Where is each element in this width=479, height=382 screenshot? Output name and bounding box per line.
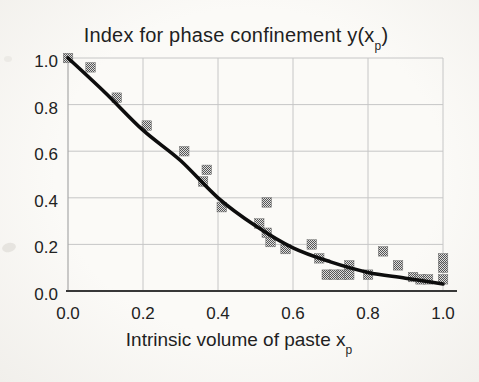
data-point (86, 63, 96, 73)
y-tick-label: 0.4 (34, 192, 58, 211)
y-tick-label: 0.2 (34, 238, 58, 257)
data-point (262, 198, 272, 208)
data-point (438, 263, 448, 273)
tick-labels: 0.00.20.40.60.81.00.00.20.40.60.81.0 (34, 52, 454, 323)
y-tick-label: 0.0 (34, 285, 58, 304)
data-point (345, 270, 355, 280)
data-point (180, 147, 190, 157)
y-tick-label: 0.8 (34, 99, 58, 118)
scatter-series (63, 53, 448, 284)
x-tick-label: 0.2 (131, 304, 155, 323)
data-point (393, 261, 403, 271)
x-axis-title-text: Intrinsic volume of paste x (126, 329, 346, 350)
y-tick-label: 1.0 (34, 52, 58, 71)
scan-smudge (4, 56, 12, 62)
x-tick-label: 0.0 (56, 304, 80, 323)
x-tick-label: 0.8 (356, 304, 380, 323)
x-tick-label: 1.0 (431, 304, 455, 323)
plot-area: 0.00.20.40.60.81.00.00.20.40.60.81.0 (0, 0, 479, 382)
x-tick-label: 0.6 (281, 304, 305, 323)
data-point (438, 254, 448, 264)
x-axis-title-subscript: p (345, 343, 352, 357)
axes (66, 58, 457, 291)
scanned-figure-page: Index for phase confinement y(xp) 0.00.2… (0, 0, 479, 382)
y-tick-label: 0.6 (34, 145, 58, 164)
data-point (202, 165, 212, 175)
x-axis-title: Intrinsic volume of paste xp (0, 329, 478, 351)
data-point (307, 240, 317, 250)
x-tick-label: 0.4 (206, 304, 230, 323)
data-point (378, 247, 388, 257)
